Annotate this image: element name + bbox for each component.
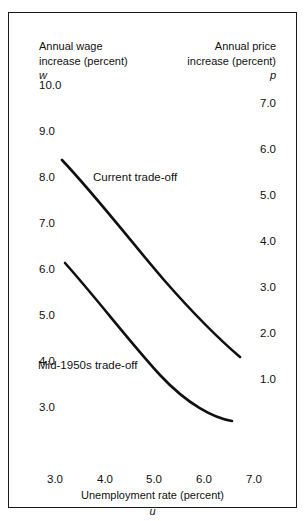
curve-label-mid1950s-tradeoff: Mid-1950s trade-off: [38, 359, 138, 371]
left-tick-label-7: 3.0: [39, 401, 55, 413]
x-tick-label-2: 5.0: [146, 473, 162, 485]
x-tick-label-3: 6.0: [196, 473, 212, 485]
left-tick-label-3: 7.0: [39, 217, 55, 229]
right-tick-label-5: 2.0: [260, 327, 276, 339]
right-tick-label-6: 1.0: [260, 373, 276, 385]
left-tick-label-5: 5.0: [39, 309, 55, 321]
curve-label-current-tradeoff: Current trade-off: [93, 171, 177, 183]
plot-frame: Annual wageincrease (percent) Annual pri…: [8, 12, 297, 508]
x-axis-symbol: u: [9, 505, 296, 517]
left-axis-title: Annual wageincrease (percent): [39, 39, 128, 69]
x-tick-label-4: 7.0: [246, 473, 262, 485]
left-tick-label-0: 10.0: [39, 79, 61, 91]
x-axis-title: Unemployment rate (percent): [9, 489, 296, 501]
left-tick-label-1: 9.0: [39, 125, 55, 137]
x-tick-label-0: 3.0: [47, 473, 63, 485]
right-tick-label-2: 5.0: [260, 189, 276, 201]
x-tick-label-1: 4.0: [97, 473, 113, 485]
right-tick-label-0: 7.0: [260, 97, 276, 109]
right-axis-symbol: p: [270, 69, 276, 81]
left-tick-label-2: 8.0: [39, 171, 55, 183]
right-tick-label-4: 3.0: [260, 281, 276, 293]
right-axis-title: Annual priceincrease (percent): [187, 39, 276, 69]
figure-container: Annual wageincrease (percent) Annual pri…: [0, 0, 307, 521]
left-tick-label-4: 6.0: [39, 263, 55, 275]
right-tick-label-3: 4.0: [260, 235, 276, 247]
right-tick-label-1: 6.0: [260, 143, 276, 155]
